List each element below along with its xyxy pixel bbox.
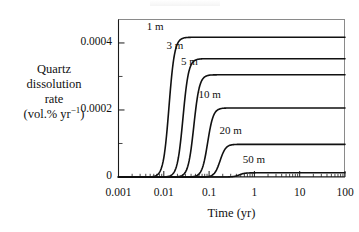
curve-10-m: [119, 108, 346, 177]
curve-label-20-m: 20 m: [220, 124, 242, 136]
y-tick-label-0: 0: [30, 169, 112, 181]
y-axis-label-line-1: Quartz: [2, 62, 106, 77]
plot-frame: [119, 20, 345, 177]
curve-3-m: [119, 59, 346, 177]
figure-container: Quartz dissolution rate (vol.% yr−1) Tim…: [0, 0, 359, 232]
curve-label-10-m: 10 m: [198, 88, 220, 100]
y-axis-ticks: [119, 43, 125, 177]
curve-label-5-m: 5 m: [181, 55, 198, 67]
curve-label-50-m: 50 m: [243, 153, 265, 165]
clipped-text-artifact: [150, 0, 220, 6]
curve-label-3-m: 3 m: [167, 39, 184, 51]
x-tick-label-5: 100: [315, 186, 359, 198]
y-tick-label-2: 0.0002: [30, 102, 112, 114]
x-axis-label: Time (yr): [118, 206, 345, 221]
data-curves: [119, 37, 346, 177]
y-tick-label-4: 0.0004: [30, 35, 112, 47]
curve-label-1-m: 1 m: [147, 20, 164, 32]
y-axis-label-line-2: dissolution: [2, 77, 106, 92]
